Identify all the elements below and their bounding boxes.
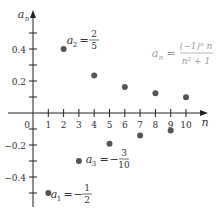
- annotation-a3-fraction-numerator: 3: [121, 148, 127, 158]
- formula-denominator: n² + 1: [182, 56, 210, 66]
- x-axis-label: n: [201, 116, 208, 129]
- x-tick-label: 3: [76, 120, 82, 130]
- y-tick-label: −0.2: [4, 141, 26, 151]
- data-point: [152, 90, 158, 96]
- annotation-a2-fraction-numerator: 2: [91, 29, 97, 39]
- data-point: [168, 128, 174, 134]
- formula-lhs-subscript: n: [159, 54, 164, 62]
- annotation-a1-subscript: 1: [57, 195, 61, 203]
- x-tick-label: 5: [107, 120, 113, 130]
- x-tick-label: 1: [45, 120, 51, 130]
- data-point: [76, 158, 82, 164]
- y-tick-label: 0.2: [12, 77, 26, 87]
- y-axis-arrow-icon: [30, 10, 36, 18]
- annotation-a1-fraction-denominator: 2: [84, 195, 90, 205]
- x-tick-label: 10: [180, 120, 192, 130]
- sequence-scatter-chart: ann1234567891000.40.2−0.2−0.4a2=25a3=−31…: [0, 0, 219, 215]
- data-point: [122, 84, 128, 90]
- plot-area: ann1234567891000.40.2−0.2−0.4a2=25a3=−31…: [0, 0, 219, 215]
- y-axis-label-subscript: n: [25, 15, 30, 23]
- data-point: [107, 141, 113, 147]
- annotation-a2-subscript: 2: [73, 41, 77, 49]
- data-point: [61, 46, 67, 52]
- annotation-a1-sign: −: [73, 188, 82, 201]
- annotation-a1-fraction-numerator: 1: [84, 183, 90, 193]
- formula-numerator: (−1)ⁿ n: [180, 41, 213, 51]
- x-tick-label: 8: [153, 120, 159, 130]
- formula-equals: =: [166, 47, 175, 60]
- data-point: [91, 72, 97, 78]
- y-axis-label: a: [18, 8, 25, 21]
- data-point: [137, 132, 143, 138]
- y-tick-label: −0.4: [4, 173, 26, 183]
- annotation-a3-sign: −: [109, 153, 118, 166]
- annotation-a2-equals: =: [79, 34, 88, 47]
- annotation-a3-fraction-denominator: 10: [118, 160, 130, 170]
- y-tick-label: 0.4: [12, 45, 27, 55]
- x-tick-label: 6: [122, 120, 128, 130]
- x-tick-label: 4: [91, 120, 97, 130]
- x-tick-label: 2: [61, 120, 67, 130]
- x-tick-label: 7: [137, 120, 143, 130]
- data-point: [183, 94, 189, 100]
- annotation-a2-fraction-denominator: 5: [91, 41, 97, 51]
- annotation-a3-equals: =: [99, 153, 108, 166]
- formula-lhs: a: [152, 47, 159, 60]
- annotation-a1-equals: =: [63, 188, 72, 201]
- annotation-a3-subscript: 3: [92, 160, 96, 168]
